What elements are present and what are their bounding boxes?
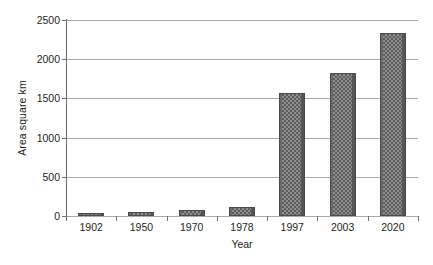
x-axis-tick-label-1978: 1978: [217, 221, 267, 234]
y-axis-tick-mark: [62, 20, 67, 21]
y-axis-tick-mark: [62, 98, 67, 99]
bar-highlight-left: [331, 74, 333, 215]
bar-1950: [128, 212, 154, 216]
bar-highlight-left: [381, 34, 383, 215]
bar-1902: [78, 213, 104, 216]
gridline: [66, 138, 418, 139]
bar-shadow-right: [201, 211, 204, 215]
x-axis-tick-label-1950: 1950: [116, 221, 166, 234]
bar-2020: [380, 33, 406, 216]
y-axis-tick-label: 500: [20, 172, 60, 182]
bar-highlight-left: [79, 214, 81, 215]
gridline: [66, 98, 418, 99]
bar-highlight-left: [230, 208, 232, 215]
bar-highlight-left: [180, 211, 182, 215]
y-axis-tick-mark: [62, 59, 67, 60]
bar-shadow-right: [352, 74, 355, 215]
bar-shadow-right: [402, 34, 405, 215]
x-axis-tick-label-1902: 1902: [66, 221, 116, 234]
bar-highlight-left: [129, 213, 131, 215]
gridline: [66, 20, 418, 21]
y-axis-tick-label: 2500: [20, 15, 60, 25]
bar-chart: Area square km 05001000150020002500 Year…: [0, 0, 433, 265]
y-axis-tick-label: 0: [20, 211, 60, 221]
x-axis-tick-label-2020: 2020: [368, 221, 418, 234]
x-axis-tick-mark: [418, 216, 419, 221]
bar-highlight-left: [280, 94, 282, 215]
y-axis-tick-label: 2000: [20, 54, 60, 64]
gridline: [66, 59, 418, 60]
bar-1978: [229, 207, 255, 216]
x-axis-tick-label-2003: 2003: [317, 221, 367, 234]
bar-1997: [279, 93, 305, 216]
y-axis-tick-mark: [62, 177, 67, 178]
bar-1970: [179, 210, 205, 216]
bar-shadow-right: [301, 94, 304, 215]
gridline: [66, 216, 418, 217]
y-axis-tick-label: 1000: [20, 133, 60, 143]
y-axis-tick-mark: [62, 138, 67, 139]
y-axis-tick-labels: 05001000150020002500: [16, 0, 60, 265]
x-axis-title: Year: [66, 238, 418, 250]
bar-shadow-right: [100, 214, 103, 215]
x-axis-tick-label-1997: 1997: [267, 221, 317, 234]
bar-2003: [330, 73, 356, 216]
gridline: [66, 177, 418, 178]
bar-shadow-right: [251, 208, 254, 215]
y-axis-tick-label: 1500: [20, 93, 60, 103]
x-axis-tick-label-1970: 1970: [167, 221, 217, 234]
plot-area: [66, 20, 418, 216]
bar-shadow-right: [150, 213, 153, 215]
